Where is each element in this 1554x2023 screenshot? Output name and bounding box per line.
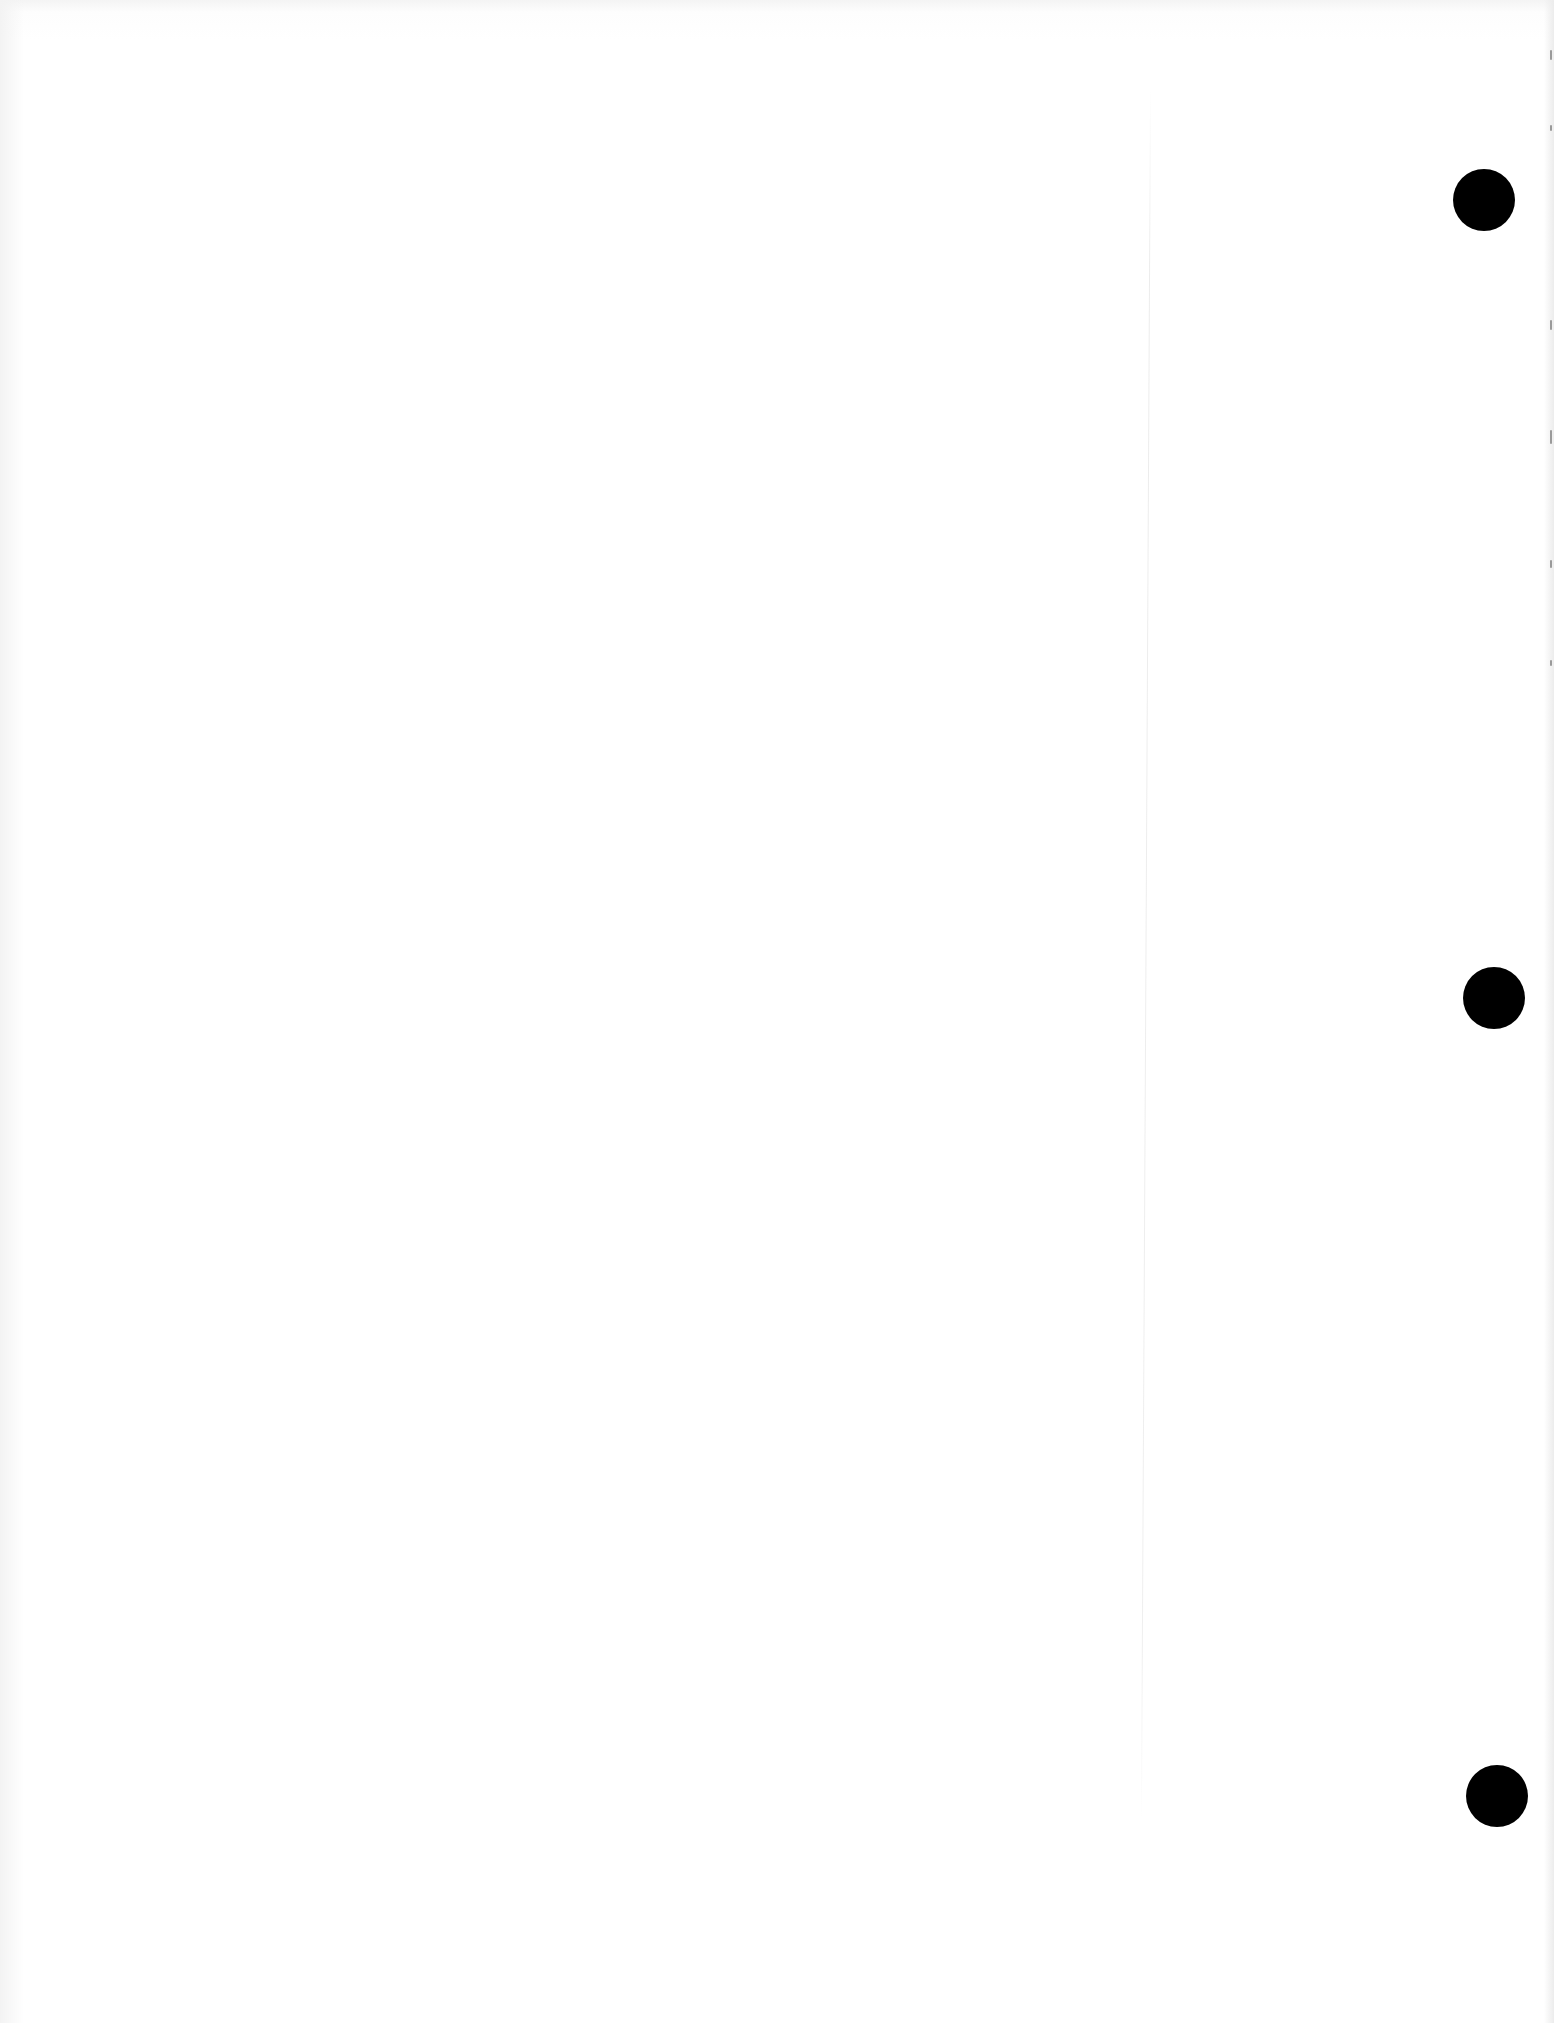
edge-speck [1550,320,1552,330]
edge-speck [1550,660,1552,666]
faint-fold-line [1141,90,1151,1820]
punch-hole-top [1453,169,1515,231]
edge-speck [1550,560,1552,568]
punch-hole-middle [1463,967,1525,1029]
punch-hole-bottom [1466,1765,1528,1827]
edge-speck [1550,50,1552,60]
blank-scanned-page [0,0,1554,2023]
edge-speck [1550,125,1552,131]
page-right-edge [1544,0,1554,2023]
edge-speck [1550,430,1552,444]
scan-edge-shadow [0,0,24,2023]
